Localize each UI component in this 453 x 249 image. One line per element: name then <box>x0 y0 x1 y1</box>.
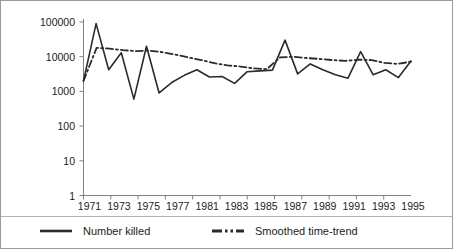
x-axis-tick-label: 1987 <box>284 200 308 212</box>
legend-label-smoothed-time-trend: Smoothed time-trend <box>255 225 358 237</box>
x-axis-tick-label: 1993 <box>372 200 396 212</box>
x-axis-tick-label: 1991 <box>343 200 367 212</box>
x-axis-tick-label: 1975 <box>137 200 161 212</box>
y-axis-tick-label: 1000 <box>52 85 76 97</box>
dash-dot-line-icon <box>211 225 245 237</box>
legend-entry-number-killed: Number killed <box>39 223 150 239</box>
y-axis-tick-label: 10000 <box>46 51 75 63</box>
x-axis-tick-label: 1973 <box>107 200 131 212</box>
x-axis-tick-label: 1981 <box>195 200 219 212</box>
x-axis-tick-label: 1971 <box>78 200 102 212</box>
legend-label-number-killed: Number killed <box>83 225 150 237</box>
legend-entry-smoothed-time-trend: Smoothed time-trend <box>211 223 358 239</box>
solid-line-icon <box>39 225 73 237</box>
chart-figure: 100000100001000100101 197119731975197719… <box>0 0 453 249</box>
x-axis-tick-labels: 1971197319751977198119831985198719891991… <box>78 200 425 212</box>
y-axis-tick-label: 100000 <box>40 16 75 28</box>
y-axis-tick-label: 100 <box>57 120 75 132</box>
y-axis-tick-label: 1 <box>69 190 75 202</box>
x-axis-tick-label: 1983 <box>225 200 249 212</box>
x-axis-tick-label: 1989 <box>313 200 337 212</box>
y-axis-tick-labels: 100000100001000100101 <box>40 16 75 202</box>
plot-area: 100000100001000100101 197119731975197719… <box>1 1 453 216</box>
x-axis-tick-marks <box>84 196 384 200</box>
series-line-number-killed <box>84 24 412 100</box>
chart-svg: 100000100001000100101 197119731975197719… <box>1 1 453 216</box>
x-axis-tick-label: 1985 <box>254 200 278 212</box>
x-axis-tick-label: 1995 <box>401 200 425 212</box>
y-axis-tick-marks <box>80 22 84 196</box>
x-axis-tick-label: 1977 <box>166 200 190 212</box>
chart-legend: Number killed Smoothed time-trend <box>1 216 453 249</box>
y-axis-tick-label: 10 <box>63 155 75 167</box>
